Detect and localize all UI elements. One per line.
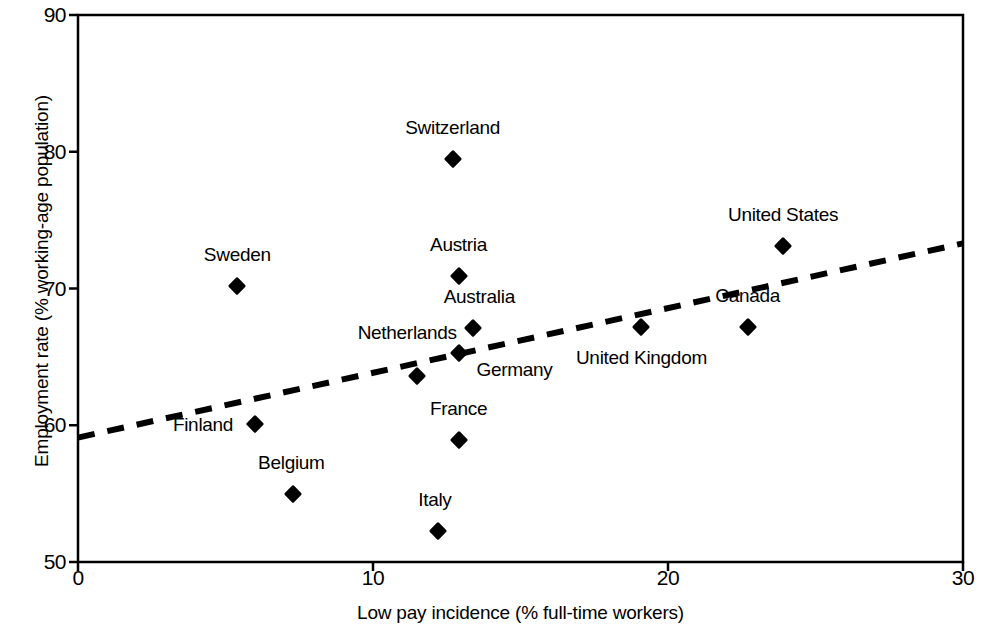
data-point-label: Italy bbox=[418, 489, 451, 511]
data-point-label: Netherlands bbox=[358, 322, 457, 344]
trendline bbox=[78, 243, 963, 437]
data-point-label: Austria bbox=[430, 234, 487, 256]
scatter-chart: Employment rate (% working-age populatio… bbox=[0, 0, 986, 635]
data-point-label: United Kingdom bbox=[576, 347, 707, 369]
plot-frame-and-trendline bbox=[0, 0, 986, 635]
data-point-label: Sweden bbox=[204, 244, 271, 266]
data-point-label: United States bbox=[728, 204, 838, 226]
plot-border bbox=[78, 15, 963, 562]
data-point-label: Finland bbox=[173, 414, 233, 436]
data-point-label: Australia bbox=[444, 286, 515, 308]
data-point-label: Belgium bbox=[258, 452, 325, 474]
data-point-label: Switzerland bbox=[405, 117, 500, 139]
data-point-label: Germany bbox=[477, 359, 553, 381]
data-point-label: Canada bbox=[715, 285, 780, 307]
data-point-label: France bbox=[430, 398, 487, 420]
